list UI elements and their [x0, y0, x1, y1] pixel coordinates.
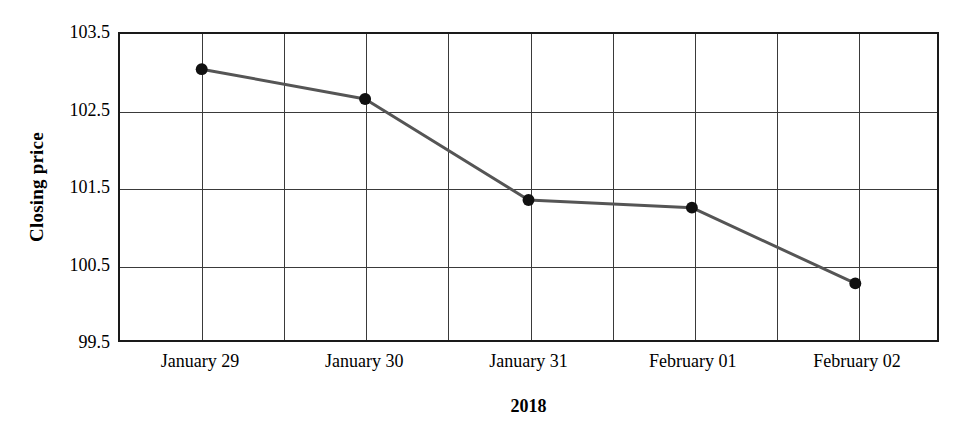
series-line	[202, 69, 856, 283]
x-tick-label: February 01	[649, 352, 736, 370]
y-tick-label: 102.5	[48, 101, 110, 119]
data-point-marker	[359, 93, 371, 105]
y-tick-label: 100.5	[48, 256, 110, 274]
x-tick-label: January 31	[489, 352, 567, 370]
y-tick-label: 103.5	[48, 23, 110, 41]
x-tick-label: January 30	[325, 352, 403, 370]
y-tick-label: 101.5	[48, 178, 110, 196]
x-axis-tick-labels: January 29January 30January 31February 0…	[118, 352, 939, 380]
data-point-marker	[196, 63, 208, 75]
data-point-marker	[849, 277, 861, 289]
x-axis-title: 2018	[118, 396, 939, 417]
y-tick-label: 99.5	[48, 333, 110, 351]
series-closing-price	[120, 34, 937, 340]
data-point-marker	[686, 202, 698, 214]
plot-area	[118, 32, 939, 342]
y-axis-tick-labels: 99.5100.5101.5102.5103.5	[48, 0, 110, 443]
x-tick-label: January 29	[161, 352, 239, 370]
data-point-marker	[523, 194, 535, 206]
x-tick-label: February 02	[813, 352, 900, 370]
line-chart: Closing price 99.5100.5101.5102.5103.5 J…	[0, 0, 966, 443]
